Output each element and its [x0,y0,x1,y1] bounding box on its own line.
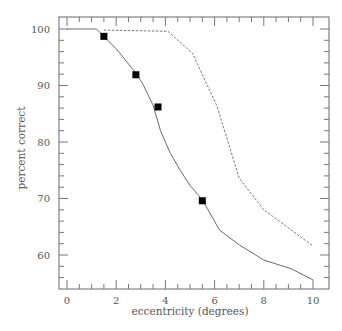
x-tick-label: 2 [113,295,119,306]
y-tick-label: 70 [37,193,50,204]
plot-frame [59,17,329,289]
x-axis-label: eccentricity (degrees) [132,305,249,317]
data-point-marker [100,33,107,40]
x-tick-label: 8 [261,295,267,306]
x-tick-label: 0 [64,295,70,306]
y-axis-ticks [59,29,329,278]
y-tick-label: 60 [37,250,50,261]
data-point-marker [132,71,139,78]
data-point-marker [199,197,206,204]
data-point-marker [155,103,162,110]
series-layer [67,29,313,280]
y-axis-tick-labels: 60708090100 [31,24,50,261]
solid-curve [67,29,313,280]
y-tick-label: 90 [37,80,50,91]
y-tick-label: 80 [37,137,50,148]
x-axis-ticks [67,17,313,289]
dashed-curve [104,30,313,246]
y-tick-label: 100 [31,24,50,35]
chart: 0246810 60708090100 eccentricity (degree… [0,0,342,331]
x-tick-label: 10 [307,295,320,306]
y-axis-label: percent correct [15,106,27,190]
